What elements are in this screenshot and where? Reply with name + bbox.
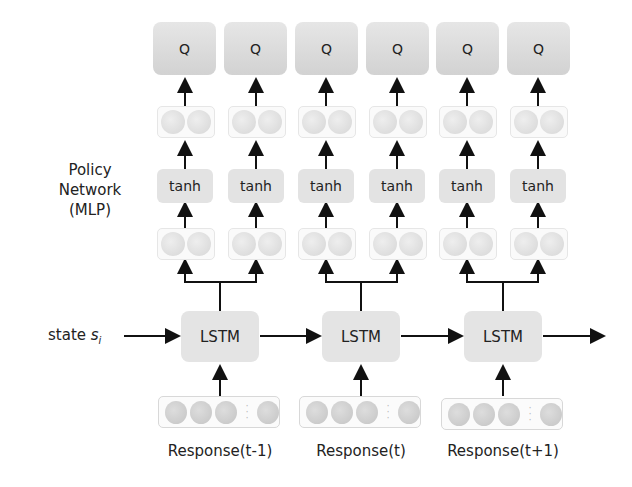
ellipsis-icon: ··· — [523, 405, 536, 423]
neuron — [328, 110, 352, 134]
neuron — [232, 232, 256, 256]
response-label-1: Response(t-1) — [150, 442, 290, 460]
lstm-node-2: LSTM — [322, 311, 400, 362]
neuron — [514, 110, 538, 134]
neuron — [257, 401, 279, 424]
neuron — [514, 232, 538, 256]
hidden-layer-2-col-1 — [157, 106, 215, 138]
neuron — [187, 110, 211, 134]
q-label: Q — [533, 41, 544, 57]
tanh-node-6: tanh — [510, 169, 566, 203]
neuron — [258, 110, 282, 134]
hidden-layer-1-col-2 — [228, 228, 286, 260]
neuron — [190, 401, 212, 424]
neuron — [443, 232, 467, 256]
q-label: Q — [179, 41, 190, 57]
policy-network-line-3: (MLP) — [50, 200, 130, 220]
tanh-label: tanh — [169, 178, 201, 194]
neuron — [187, 232, 211, 256]
neuron — [399, 232, 423, 256]
lstm-node-3: LSTM — [464, 311, 542, 362]
neuron — [399, 110, 423, 134]
hidden-layer-1-col-1 — [157, 228, 215, 260]
hidden-layer-1-col-6 — [510, 228, 568, 260]
policy-network-label: Policy Network (MLP) — [50, 160, 130, 220]
policy-network-line-1: Policy — [50, 160, 130, 180]
ellipsis-icon: ··· — [381, 403, 394, 421]
neuron — [232, 110, 256, 134]
neuron — [473, 403, 495, 426]
response-vector-1: ··· — [158, 396, 280, 428]
hidden-layer-2-col-2 — [228, 106, 286, 138]
q-node-1: Q — [153, 22, 216, 75]
response-vector-2: ··· — [299, 396, 421, 428]
q-node-3: Q — [295, 22, 358, 75]
tanh-node-3: tanh — [298, 169, 354, 203]
tanh-node-4: tanh — [369, 169, 425, 203]
neuron — [331, 401, 353, 424]
hidden-layer-1-col-3 — [298, 228, 356, 260]
q-node-4: Q — [366, 22, 429, 75]
hidden-layer-2-col-5 — [439, 106, 497, 138]
neuron — [373, 110, 397, 134]
tanh-label: tanh — [240, 178, 272, 194]
lstm-label: LSTM — [483, 328, 523, 346]
state-subscript: i — [99, 335, 102, 346]
neuron — [540, 403, 562, 426]
neuron — [165, 401, 187, 424]
neuron — [161, 232, 185, 256]
policy-network-line-2: Network — [50, 180, 130, 200]
tanh-node-5: tanh — [439, 169, 495, 203]
q-node-5: Q — [436, 22, 499, 75]
hidden-layer-1-col-5 — [439, 228, 497, 260]
response-label-3: Response(t+1) — [433, 442, 573, 460]
neuron — [398, 401, 420, 424]
neuron — [540, 232, 564, 256]
lstm-node-1: LSTM — [181, 311, 259, 362]
neuron — [469, 110, 493, 134]
tanh-label: tanh — [522, 178, 554, 194]
q-label: Q — [392, 41, 403, 57]
ellipsis-icon: ··· — [240, 403, 253, 421]
neuron — [356, 401, 378, 424]
hidden-layer-1-col-4 — [369, 228, 427, 260]
q-node-2: Q — [224, 22, 287, 75]
neuron — [328, 232, 352, 256]
tanh-label: tanh — [310, 178, 342, 194]
lstm-label: LSTM — [200, 328, 240, 346]
neuron — [302, 110, 326, 134]
q-node-6: Q — [507, 22, 570, 75]
tanh-label: tanh — [451, 178, 483, 194]
tanh-node-1: tanh — [157, 169, 213, 203]
state-label: state si — [48, 326, 101, 346]
state-symbol: s — [91, 326, 99, 344]
neuron — [498, 403, 520, 426]
q-label: Q — [250, 41, 261, 57]
neuron — [258, 232, 282, 256]
neuron — [448, 403, 470, 426]
state-text: state — [48, 326, 91, 344]
hidden-layer-2-col-6 — [510, 106, 568, 138]
q-label: Q — [462, 41, 473, 57]
tanh-node-2: tanh — [228, 169, 284, 203]
hidden-layer-2-col-3 — [298, 106, 356, 138]
neuron — [540, 110, 564, 134]
tanh-label: tanh — [381, 178, 413, 194]
neuron — [306, 401, 328, 424]
neuron — [469, 232, 493, 256]
hidden-layer-2-col-4 — [369, 106, 427, 138]
q-label: Q — [321, 41, 332, 57]
response-vector-3: ··· — [441, 398, 563, 430]
neuron — [161, 110, 185, 134]
neuron — [443, 110, 467, 134]
response-label-2: Response(t) — [291, 442, 431, 460]
neuron — [215, 401, 237, 424]
neuron — [302, 232, 326, 256]
lstm-label: LSTM — [341, 328, 381, 346]
neuron — [373, 232, 397, 256]
